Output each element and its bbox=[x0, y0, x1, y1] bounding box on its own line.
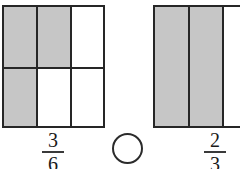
fraction-label-left: 3 6 bbox=[42, 130, 64, 169]
fraction-left-denominator: 6 bbox=[44, 153, 62, 169]
fraction-right-denominator: 3 bbox=[206, 153, 224, 169]
fraction-right-numerator: 2 bbox=[206, 130, 224, 151]
fraction-left-numerator: 3 bbox=[44, 130, 62, 151]
fraction-model-left bbox=[2, 5, 105, 128]
model-left-cell-r1c3[interactable] bbox=[72, 7, 103, 69]
model-left-cell-r2c1[interactable] bbox=[4, 69, 38, 126]
model-left-cell-r1c1[interactable] bbox=[4, 7, 38, 69]
model-left-cell-r2c3[interactable] bbox=[72, 69, 103, 126]
comparison-operator-circle[interactable] bbox=[112, 133, 143, 164]
fraction-model-right bbox=[153, 5, 240, 128]
model-left-cell-r1c2[interactable] bbox=[38, 7, 72, 69]
model-left-cell-r2c2[interactable] bbox=[38, 69, 72, 126]
worksheet-canvas: 3 6 2 3 bbox=[0, 0, 240, 169]
fraction-label-right: 2 3 bbox=[204, 130, 226, 169]
model-right-cell-r1c2[interactable] bbox=[190, 7, 224, 126]
model-right-cell-r1c3[interactable] bbox=[224, 7, 240, 126]
model-right-cell-r1c1[interactable] bbox=[155, 7, 190, 126]
